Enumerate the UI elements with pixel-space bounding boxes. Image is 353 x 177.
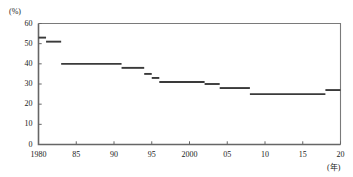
plot-frame <box>39 24 341 145</box>
step-line-series <box>39 38 341 94</box>
step-chart: (%) (年) 6050403020100 198085909520000510… <box>0 0 353 177</box>
plot-area <box>0 0 353 177</box>
axis-ticks <box>39 24 341 145</box>
axis-left-bottom <box>39 24 341 145</box>
axis-top-right <box>39 24 341 145</box>
